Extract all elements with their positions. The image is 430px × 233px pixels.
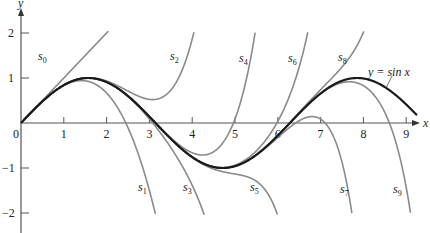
- label-s4: s4: [239, 51, 248, 67]
- label-s2: s2: [170, 49, 179, 65]
- x-tick-label: 3: [146, 127, 152, 141]
- x-tick-label: 8: [360, 127, 366, 141]
- y-tick-label: 1: [8, 71, 14, 85]
- y-tick-label: −1: [2, 161, 15, 175]
- x-tick-label: 1: [61, 127, 67, 141]
- x-ticks: 0123456789: [13, 117, 409, 141]
- x-tick-label: 2: [104, 127, 110, 141]
- x-axis-arrow-icon: [412, 120, 420, 126]
- s3-curve: [21, 78, 204, 215]
- label-s9: s9: [393, 182, 402, 198]
- label-s6: s6: [288, 51, 297, 67]
- s4-curve: [21, 33, 255, 156]
- s9-curve: [21, 78, 410, 213]
- label-s8: s8: [338, 50, 347, 66]
- s1-curve: [21, 81, 155, 214]
- x-tick-label: 4: [189, 127, 195, 141]
- label-sin: y = sin x: [367, 65, 410, 79]
- label-s1: s1: [138, 180, 147, 196]
- x-tick-label: 9: [403, 127, 409, 141]
- s2-curve: [21, 32, 194, 123]
- x-axis-label: x: [422, 116, 429, 130]
- y-tick-label: 2: [8, 26, 14, 40]
- x-tick-label: 0: [13, 127, 19, 141]
- y-axis-label: y: [17, 0, 24, 10]
- s5-curve: [21, 78, 277, 214]
- y-tick-label: −2: [2, 206, 15, 220]
- x-tick-label: 5: [232, 127, 238, 141]
- x-tick-label: 7: [318, 127, 324, 141]
- taylor-sine-chart: x y 0123456789 −2−112 s0 s2 s4 s6 s8 y =…: [0, 0, 430, 233]
- label-s0: s0: [38, 49, 47, 65]
